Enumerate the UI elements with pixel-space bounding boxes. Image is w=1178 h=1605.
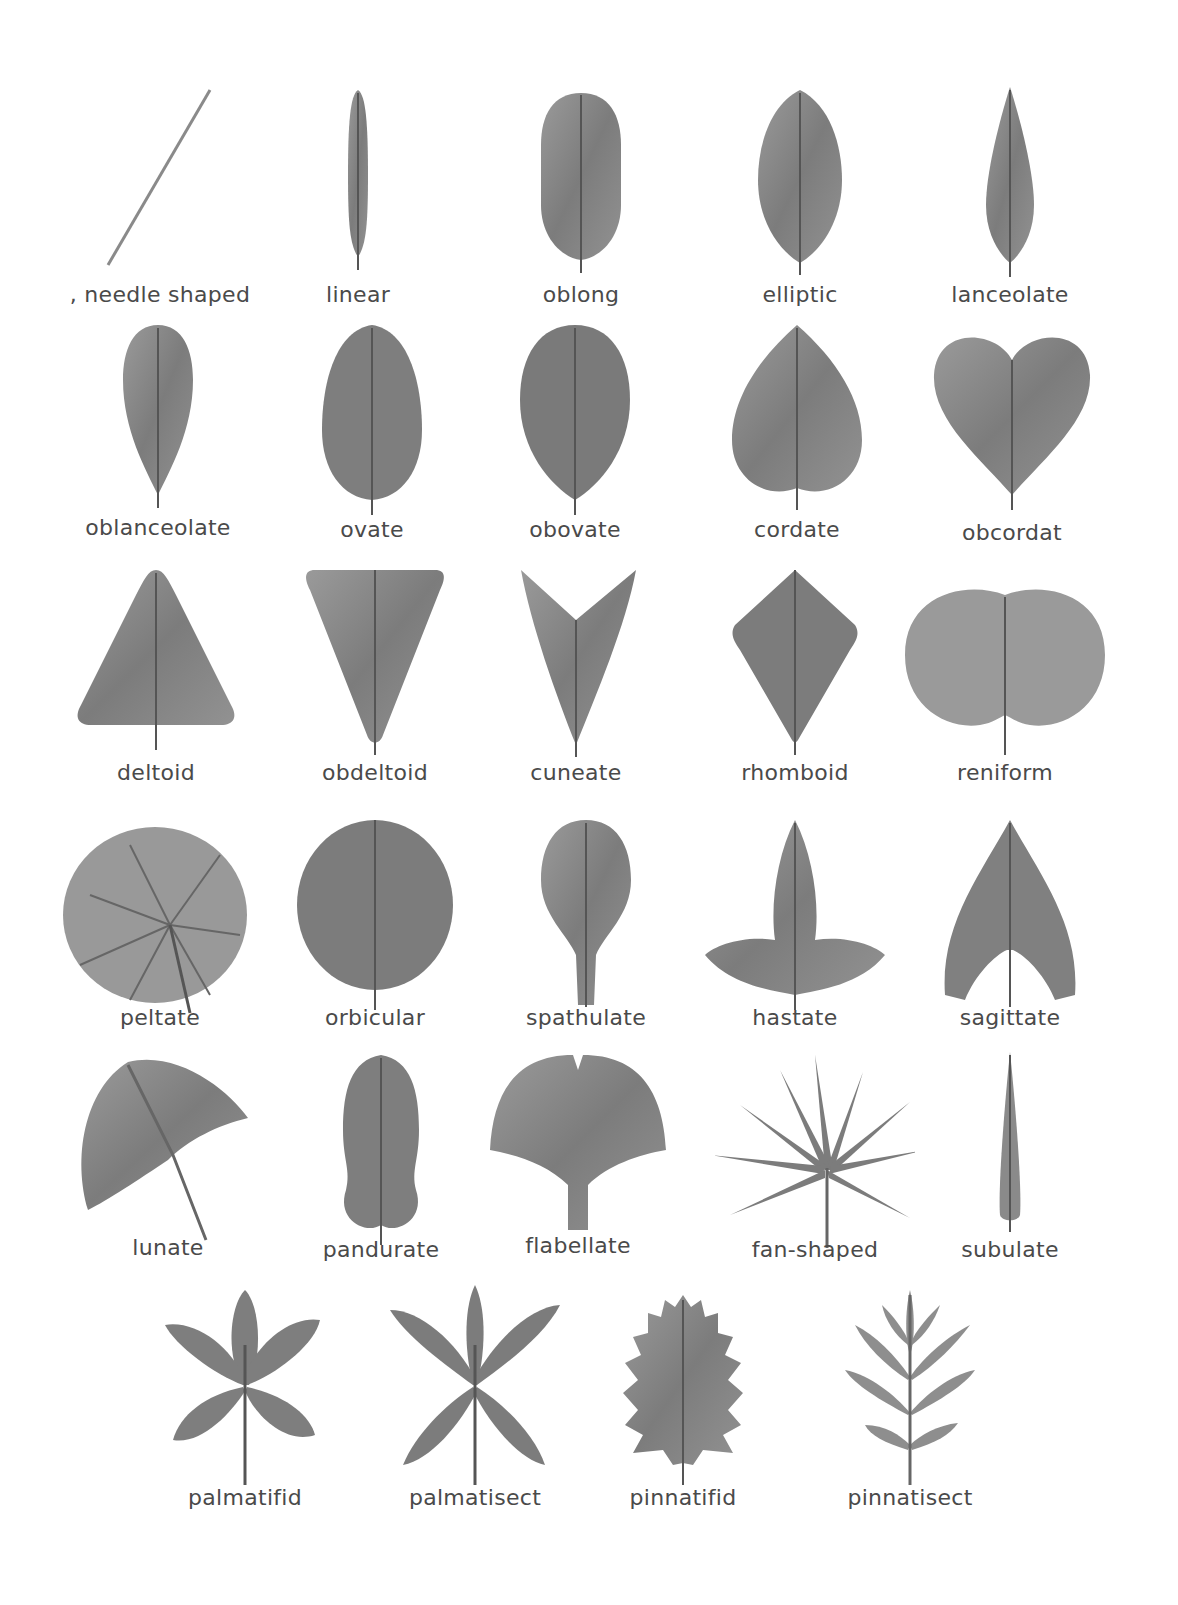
leaf-label: peltate bbox=[40, 1005, 280, 1030]
leaf-label: obovate bbox=[455, 517, 695, 542]
needle-leaf-icon bbox=[60, 85, 260, 285]
leaf-label: rhomboid bbox=[675, 760, 915, 785]
lunate-leaf-icon bbox=[68, 1050, 268, 1250]
leaf-label: sagittate bbox=[890, 1005, 1130, 1030]
obdeltoid-leaf-icon bbox=[275, 565, 475, 765]
linear-leaf-icon bbox=[258, 85, 458, 285]
pinnatisect-leaf-icon bbox=[810, 1285, 1010, 1485]
leaf-flabellate: flabellate bbox=[478, 1050, 678, 1290]
peltate-leaf-icon bbox=[60, 815, 260, 1015]
hastate-leaf-icon bbox=[695, 815, 895, 1015]
rhomboid-leaf-icon bbox=[695, 565, 895, 765]
leaf-spathulate: spathulate bbox=[486, 815, 686, 1055]
cordate-leaf-icon bbox=[697, 320, 897, 520]
leaf-label: oblong bbox=[461, 282, 701, 307]
elliptic-leaf-icon bbox=[700, 85, 900, 285]
pandurate-leaf-icon bbox=[281, 1050, 481, 1250]
leaf-pandurate: pandurate bbox=[281, 1050, 481, 1290]
leaf-needle-shaped: , needle shaped bbox=[60, 85, 260, 325]
oblong-leaf-icon bbox=[481, 85, 681, 285]
leaf-label: deltoid bbox=[36, 760, 276, 785]
sagittate-leaf-icon bbox=[910, 815, 1110, 1015]
leaf-elliptic: elliptic bbox=[700, 85, 900, 325]
palmatifid-leaf-icon bbox=[145, 1285, 345, 1485]
leaf-oblanceolate: oblanceolate bbox=[58, 320, 258, 560]
leaf-label: orbicular bbox=[255, 1005, 495, 1030]
leaf-reniform: reniform bbox=[905, 565, 1105, 805]
leaf-obovate: obovate bbox=[475, 320, 675, 560]
leaf-label: pinnatisect bbox=[790, 1485, 1030, 1510]
leaf-label: hastate bbox=[675, 1005, 915, 1030]
leaf-peltate: peltate bbox=[60, 815, 260, 1055]
cuneate-leaf-icon bbox=[476, 565, 676, 765]
leaf-orbicular: orbicular bbox=[275, 815, 475, 1055]
leaf-oblong: oblong bbox=[481, 85, 681, 325]
leaf-palmatifid: palmatifid bbox=[145, 1285, 345, 1525]
leaf-subulate: subulate bbox=[910, 1050, 1110, 1290]
ovate-leaf-icon bbox=[272, 320, 472, 520]
leaf-hastate: hastate bbox=[695, 815, 895, 1055]
leaf-fan-shaped: fan-shaped bbox=[715, 1050, 915, 1290]
leaf-label: palmatisect bbox=[355, 1485, 595, 1510]
leaf-pinnatifid: pinnatifid bbox=[583, 1285, 783, 1525]
leaf-cuneate: cuneate bbox=[476, 565, 676, 805]
leaf-label: pinnatifid bbox=[563, 1485, 803, 1510]
leaf-label: lunate bbox=[48, 1235, 288, 1260]
leaf-cordate: cordate bbox=[697, 320, 897, 560]
leaf-label: cordate bbox=[677, 517, 917, 542]
leaf-palmatisect: palmatisect bbox=[375, 1285, 575, 1525]
oblanceolate-leaf-icon bbox=[58, 320, 258, 520]
leaf-rhomboid: rhomboid bbox=[695, 565, 895, 805]
leaf-label: subulate bbox=[890, 1237, 1130, 1262]
lanceolate-leaf-icon bbox=[910, 85, 1110, 285]
obovate-leaf-icon bbox=[475, 320, 675, 520]
subulate-leaf-icon bbox=[910, 1050, 1110, 1250]
flabellate-leaf-icon bbox=[478, 1050, 678, 1250]
leaf-obdeltoid: obdeltoid bbox=[275, 565, 475, 805]
leaf-label: obcordat bbox=[892, 520, 1132, 545]
obcordate-leaf-icon bbox=[912, 320, 1112, 520]
leaf-label: palmatifid bbox=[125, 1485, 365, 1510]
leaf-linear: linear bbox=[258, 85, 458, 325]
leaf-label: flabellate bbox=[458, 1233, 698, 1258]
palmatisect-leaf-icon bbox=[375, 1285, 575, 1485]
spathulate-leaf-icon bbox=[486, 815, 686, 1015]
leaf-sagittate: sagittate bbox=[910, 815, 1110, 1055]
leaf-label: lanceolate bbox=[890, 282, 1130, 307]
reniform-leaf-icon bbox=[905, 565, 1105, 765]
leaf-pinnatisect: pinnatisect bbox=[810, 1285, 1010, 1525]
leaf-label: cuneate bbox=[456, 760, 696, 785]
leaf-ovate: ovate bbox=[272, 320, 472, 560]
leaf-lanceolate: lanceolate bbox=[910, 85, 1110, 325]
leaf-label: oblanceolate bbox=[38, 515, 278, 540]
orbicular-leaf-icon bbox=[275, 815, 475, 1015]
leaf-lunate: lunate bbox=[68, 1050, 268, 1290]
leaf-obcordat: obcordat bbox=[912, 320, 1112, 560]
fan-shaped-leaf-icon bbox=[715, 1050, 915, 1250]
leaf-label: reniform bbox=[885, 760, 1125, 785]
leaf-deltoid: deltoid bbox=[56, 565, 256, 805]
deltoid-leaf-icon bbox=[56, 565, 256, 765]
leaf-label: linear bbox=[238, 282, 478, 307]
leaf-label: elliptic bbox=[680, 282, 920, 307]
pinnatifid-leaf-icon bbox=[583, 1285, 783, 1485]
leaf-label: spathulate bbox=[466, 1005, 706, 1030]
